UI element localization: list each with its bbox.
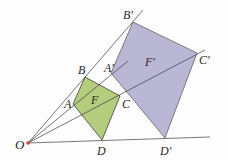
homothety-diagram: O A B C D F A' B' C' D' F' (0, 0, 228, 160)
diagram-graphics (0, 0, 228, 160)
label-a-prime: A' (104, 62, 114, 74)
label-d: D (97, 145, 106, 157)
ray-o-d-prime (28, 137, 210, 143)
center-point-o (26, 141, 30, 145)
label-d-prime: D' (160, 145, 171, 157)
label-o: O (15, 138, 24, 151)
label-b-prime: B' (123, 9, 133, 21)
label-f-prime: F' (145, 56, 155, 68)
label-c-prime: C' (199, 54, 210, 66)
label-a: A (64, 98, 71, 110)
label-f: F (91, 94, 98, 106)
image-quadrilateral-f-prime (111, 22, 197, 138)
label-b: B (78, 64, 85, 76)
label-c: C (122, 98, 130, 110)
